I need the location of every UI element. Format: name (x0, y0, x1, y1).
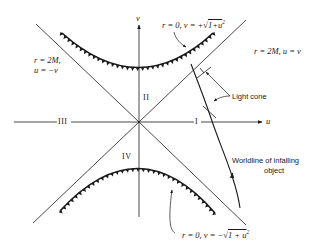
horizon-left-label-line2: u = −v (34, 66, 58, 75)
region-III-label: III (58, 117, 68, 126)
horizon-left-label-line1: r = 2M, (34, 56, 61, 65)
worldline-label-line2: object (264, 166, 284, 175)
future-singularity-label: r = 0, v = +√1+u2 (162, 18, 225, 30)
horizon-right-upper (139, 20, 246, 122)
worldline (191, 64, 240, 208)
leader-light-cone-upper (206, 72, 230, 96)
region-I-label: I (195, 117, 198, 126)
horizon-right-label: r = 2M, u = v (254, 47, 301, 56)
v-axis-label: v (136, 14, 140, 23)
leader-lines (170, 32, 230, 233)
leader-future-singularity (174, 32, 186, 47)
worldline-label-line1: Worldline of infalling (232, 156, 299, 165)
future-singularity (60, 32, 216, 71)
light-cone-label: Light cone (232, 92, 267, 101)
u-axis-label: u (266, 117, 270, 126)
leader-past-singularity (170, 190, 175, 233)
region-IV-label: IV (122, 152, 131, 161)
kruskal-diagram (0, 0, 323, 250)
horizon-right-lower (139, 122, 246, 225)
past-singularity-label: r = 0, v = −√1 + u2 (182, 228, 249, 240)
region-II-label: II (143, 93, 149, 102)
worldline-direction-arrow (232, 173, 233, 178)
light-cone (197, 67, 216, 118)
leader-light-cone-lower (214, 96, 230, 101)
